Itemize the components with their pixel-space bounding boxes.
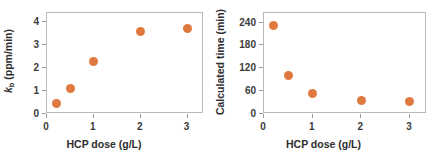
y-tick-mark [42, 90, 46, 91]
data-point [52, 99, 61, 108]
y-axis-label-symbol: k [2, 87, 14, 93]
y-axis-label-subscript: b [7, 83, 16, 88]
y-tick-mark [259, 67, 263, 68]
y-axis-label-units: (ppm/min) [2, 29, 14, 83]
x-tick-mark [93, 114, 94, 118]
data-point [308, 89, 317, 98]
y-tick-mark [259, 22, 263, 23]
x-tick-label: 2 [137, 121, 143, 132]
y-tick-mark [42, 21, 46, 22]
y-axis-label-left: kb (ppm/min) [2, 9, 14, 113]
data-point [66, 84, 75, 93]
figure-container: 012340123 kb (ppm/min) HCP dose (g/L) 06… [0, 0, 437, 156]
x-tick-label: 1 [90, 121, 96, 132]
x-tick-mark [187, 114, 188, 118]
x-axis-label-right: HCP dose (g/L) [241, 138, 406, 150]
chart-panel-right: 0601201802400123 Calculated time (min) H… [215, 0, 437, 156]
x-tick-mark [46, 114, 47, 118]
y-tick-mark [42, 67, 46, 68]
x-tick-label: 2 [358, 121, 364, 132]
data-point [269, 21, 278, 30]
x-tick-label: 0 [260, 121, 266, 132]
data-point [284, 71, 293, 80]
plot-area-left [46, 12, 203, 113]
data-point [136, 27, 145, 36]
x-tick-label: 3 [406, 121, 412, 132]
x-tick-label: 1 [309, 121, 315, 132]
plot-area-right [263, 12, 426, 113]
x-tick-mark [409, 114, 410, 118]
x-tick-mark [312, 114, 313, 118]
x-tick-mark [360, 114, 361, 118]
data-point [405, 97, 414, 106]
x-tick-mark [140, 114, 141, 118]
data-point [89, 57, 98, 66]
y-tick-mark [259, 44, 263, 45]
x-tick-label: 3 [184, 121, 190, 132]
data-point [183, 24, 192, 33]
y-axis-label-right: Calculated time (min) [214, 7, 226, 117]
x-tick-label: 0 [43, 121, 49, 132]
y-tick-mark [259, 90, 263, 91]
x-axis-label-left: HCP dose (g/L) [24, 138, 184, 150]
y-tick-mark [42, 44, 46, 45]
x-tick-mark [263, 114, 264, 118]
data-point [357, 96, 366, 105]
chart-panel-left: 012340123 kb (ppm/min) HCP dose (g/L) [0, 0, 215, 156]
